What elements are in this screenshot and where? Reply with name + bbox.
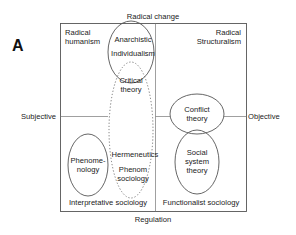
axis-label-radical-change: Radical change: [127, 12, 179, 21]
quadrant-label-radical-structuralism-line2: Structuralism: [197, 37, 241, 46]
theory-hermeneutics: Hermeneutics: [112, 150, 159, 159]
sociological-paradigms-diagram: A Radical change Regulation Subjective O…: [0, 0, 296, 235]
theory-phenomenology-line1: Phenome-: [70, 156, 106, 165]
theory-critical: Critical: [119, 76, 143, 85]
panel-label: A: [12, 37, 24, 54]
theory-individualism: Individualism: [111, 49, 155, 58]
theory-phenom: Phenom: [119, 165, 147, 174]
quadrant-label-radical-humanism-line2: humanism: [65, 37, 100, 46]
theory-anarchistic: Anarchistic: [114, 35, 151, 44]
theory-theory: theory: [186, 166, 207, 175]
theory-phenom-sociology: sociology: [117, 174, 149, 183]
axis-label-regulation: Regulation: [135, 215, 171, 224]
quadrant-label-radical-humanism-line1: Radical: [65, 28, 91, 37]
axis-label-subjective: Subjective: [21, 112, 56, 121]
theory-social: Social: [187, 148, 208, 157]
quadrant-label-interpretative-sociology: Interpretative sociology: [69, 198, 147, 207]
theory-critical-theory: theory: [120, 85, 141, 94]
theory-conflict: Conflict: [184, 105, 210, 114]
theory-system: system: [185, 157, 209, 166]
theory-conflict-theory: theory: [186, 114, 207, 123]
quadrant-label-radical-structuralism-line1: Radical: [216, 28, 242, 37]
axis-label-objective: Objective: [248, 112, 280, 121]
quadrant-label-functionalist-sociology: Functionalist sociology: [163, 198, 240, 207]
theory-phenomenology-line2: nology: [77, 165, 100, 174]
